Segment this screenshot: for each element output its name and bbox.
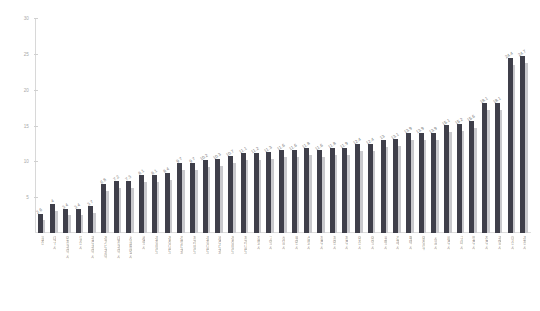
x-axis-label-slot: 천안시	[327, 236, 340, 304]
x-axis-tick-label: 수원시	[306, 236, 310, 304]
bar-item[interactable]: 11.8	[302, 18, 315, 233]
bar-shadow	[119, 188, 122, 233]
bar-item[interactable]: 15.2	[454, 18, 467, 233]
bar-item[interactable]: 9.7	[187, 18, 200, 233]
bar-series: 2.643.43.43.76.87.27.38.18.18.49.79.710.…	[35, 18, 531, 233]
bar-item[interactable]: 13.9	[416, 18, 429, 233]
bar-item[interactable]: 11.9	[340, 18, 353, 233]
bar-item[interactable]: 7.2	[111, 18, 124, 233]
bar-shadow	[208, 167, 211, 233]
bar-value-label: 15.2	[454, 117, 464, 126]
x-axis-tick-label: 성남시	[281, 236, 285, 304]
bar-item[interactable]: 9.7	[175, 18, 188, 233]
bar-item[interactable]: 13.9	[429, 18, 442, 233]
bar-item[interactable]: 15.1	[442, 18, 455, 233]
bar-shadow	[182, 170, 185, 233]
bar-shadow	[411, 140, 414, 233]
x-axis-label-slot: 평택시	[403, 236, 416, 304]
y-axis-tick-label: 30	[24, 16, 29, 21]
bar-item[interactable]: 24.7	[518, 18, 531, 233]
x-axis-tick-label: 전라남도	[242, 236, 246, 304]
y-axis-tick-label: 20	[24, 87, 29, 92]
bar-item[interactable]: 3.7	[86, 18, 99, 233]
x-axis-label-slot: 부산시	[73, 236, 86, 304]
x-axis-tick-label: 안산시	[357, 236, 361, 304]
x-axis-label-slot: 대구시	[48, 236, 61, 304]
bar-item[interactable]: 8.1	[137, 18, 150, 233]
bar-item[interactable]: 18.1	[480, 18, 493, 233]
bar-item[interactable]: 13.9	[403, 18, 416, 233]
x-axis-label-slot: 구미시	[454, 236, 467, 304]
bar-item[interactable]: 11.6	[276, 18, 289, 233]
bar-item[interactable]: 11.8	[327, 18, 340, 233]
bar-shadow	[106, 191, 109, 233]
x-axis-tick-label: 제주도권	[217, 236, 221, 304]
bar-shadow	[525, 63, 528, 233]
bar-item[interactable]: 12.4	[365, 18, 378, 233]
x-axis-tick-label: 천안시	[331, 236, 335, 304]
x-axis-tick-label: 진주시	[484, 236, 488, 304]
bar-shadow	[309, 155, 312, 233]
bar-item[interactable]: 8.4	[162, 18, 175, 233]
bar-shadow	[157, 182, 160, 233]
bar-item[interactable]: 11.6	[314, 18, 327, 233]
bar-item[interactable]: 10.3	[213, 18, 226, 233]
x-axis-label-slot: 울산	[35, 236, 48, 304]
bar-item[interactable]: 2.6	[35, 18, 48, 233]
x-axis-tick-label: 안양시	[369, 236, 373, 304]
x-axis-label-slot: 대전광역시	[111, 236, 124, 304]
x-axis-label-slot: 포항시	[378, 236, 391, 304]
bar-item[interactable]: 11.6	[289, 18, 302, 233]
x-axis-tick-label: 대구시	[52, 236, 56, 304]
bar-item[interactable]: 8.1	[149, 18, 162, 233]
y-axis-tick-label: 15	[24, 123, 29, 128]
x-axis-tick-label: 포항시	[382, 236, 386, 304]
x-axis-label-slot: 광명시	[492, 236, 505, 304]
bar-item[interactable]: 11.3	[264, 18, 277, 233]
bar-item[interactable]: 13	[378, 18, 391, 233]
x-axis-tick-label: 울산	[39, 236, 43, 304]
bar-shadow	[424, 140, 427, 233]
bar-item[interactable]: 6.8	[99, 18, 112, 233]
bar-value-label: 11.6	[314, 142, 324, 151]
bar-shadow	[43, 220, 46, 233]
x-axis-tick-label: 김해시	[395, 236, 399, 304]
x-axis-label-slot: 세종시	[137, 236, 150, 304]
x-axis-tick-label: 고양시	[268, 236, 272, 304]
bar-shadow	[93, 213, 96, 233]
bar-item[interactable]: 11.1	[238, 18, 251, 233]
bar-item[interactable]: 13.1	[391, 18, 404, 233]
bar-item[interactable]: 3.4	[60, 18, 73, 233]
plot-area: 30252015105 2.643.43.43.76.87.27.38.18.1…	[35, 18, 531, 233]
x-axis-tick-label: 충청남도	[204, 236, 208, 304]
bar-item[interactable]: 10.2	[200, 18, 213, 233]
x-axis-label-slot: 전라북도	[187, 236, 200, 304]
x-axis-tick-label: 서울특별시	[128, 236, 132, 304]
bar-item[interactable]: 4	[48, 18, 61, 233]
x-axis-label-slot: 충청북도	[149, 236, 162, 304]
bar-shadow	[246, 160, 249, 233]
bar-item[interactable]: 11.2	[251, 18, 264, 233]
x-axis-tick-label: 경기도권역	[103, 236, 107, 304]
x-axis-tick-label: 창원시	[255, 236, 259, 304]
bar-shadow	[462, 131, 465, 233]
bar-item[interactable]: 24.4	[505, 18, 518, 233]
bar-item[interactable]: 12.4	[353, 18, 366, 233]
bar-item[interactable]: 3.4	[73, 18, 86, 233]
x-axis-tick-label: 부산시	[77, 236, 81, 304]
x-axis-label-slot: 충청남도	[200, 236, 213, 304]
bar-shadow	[297, 157, 300, 233]
bar-shadow	[347, 155, 350, 233]
bar-shadow	[233, 163, 236, 233]
bar-shadow	[220, 166, 223, 233]
bar-item[interactable]: 10.7	[226, 18, 239, 233]
x-axis-label-slot: 안산시	[353, 236, 366, 304]
bar-chart: 30252015105 2.643.43.43.76.87.27.38.18.1…	[0, 0, 540, 311]
x-axis-label-slot: 전주시	[340, 236, 353, 304]
x-axis-label-slot: 전라남도	[238, 236, 251, 304]
bar-item[interactable]: 7.3	[124, 18, 137, 233]
bar-item[interactable]: 18.1	[492, 18, 505, 233]
bar-item[interactable]: 15.6	[467, 18, 480, 233]
x-axis-label-slot: 시흥시	[429, 236, 442, 304]
bar-shadow	[68, 215, 71, 233]
